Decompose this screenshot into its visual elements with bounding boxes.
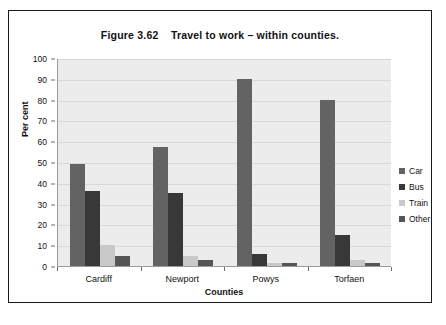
- bar-group: [142, 59, 226, 266]
- chart-title: Figure 3.62 Travel to work – within coun…: [9, 29, 431, 41]
- y-tick-label: 30: [38, 200, 47, 209]
- bar[interactable]: [183, 256, 198, 266]
- x-tick-mark: [391, 267, 392, 271]
- chart-legend: CarBusTrainOther: [399, 163, 446, 227]
- bar[interactable]: [153, 147, 168, 266]
- bar-group: [225, 59, 309, 266]
- y-tick-label: 70: [38, 117, 47, 126]
- y-tick-label: 80: [38, 96, 47, 105]
- bar[interactable]: [115, 256, 130, 266]
- bar-group: [58, 59, 142, 266]
- y-tick-mark: [51, 121, 55, 122]
- x-tick-mark: [141, 267, 142, 271]
- y-tick-mark: [51, 100, 55, 101]
- legend-swatch-icon: [399, 168, 405, 174]
- x-tick-mark: [57, 267, 58, 271]
- bar[interactable]: [85, 191, 100, 266]
- bar[interactable]: [70, 164, 85, 266]
- y-tick-label: 0: [42, 263, 47, 272]
- legend-label: Car: [409, 167, 423, 176]
- x-tick-label: Powys: [252, 274, 279, 284]
- x-axis: CardiffNewportPowysTorfaen: [57, 267, 391, 289]
- x-tick-mark: [308, 267, 309, 271]
- y-tick-label: 20: [38, 221, 47, 230]
- y-axis: 0102030405060708090100: [9, 55, 55, 271]
- y-tick-label: 60: [38, 138, 47, 147]
- bar-group: [309, 59, 393, 266]
- bar[interactable]: [198, 260, 213, 266]
- y-tick-mark: [51, 163, 55, 164]
- legend-swatch-icon: [399, 200, 405, 206]
- figure-frame: Figure 3.62 Travel to work – within coun…: [8, 10, 432, 303]
- x-tick-label: Torfaen: [334, 274, 364, 284]
- y-tick-label: 10: [38, 242, 47, 251]
- legend-swatch-icon: [399, 184, 405, 190]
- x-tick-mark: [224, 267, 225, 271]
- legend-item-car[interactable]: Car: [399, 163, 446, 179]
- y-tick-mark: [51, 142, 55, 143]
- y-tick-label: 90: [38, 76, 47, 85]
- y-tick-mark: [51, 267, 55, 268]
- y-tick-mark: [51, 246, 55, 247]
- y-tick-mark: [51, 183, 55, 184]
- bar[interactable]: [237, 79, 252, 266]
- legend-label: Train: [409, 199, 428, 208]
- y-tick-label: 40: [38, 180, 47, 189]
- y-tick-label: 100: [33, 55, 47, 64]
- bar[interactable]: [100, 245, 115, 266]
- bar[interactable]: [282, 263, 297, 266]
- y-tick-mark: [51, 79, 55, 80]
- bar[interactable]: [320, 100, 335, 266]
- legend-item-other[interactable]: Other: [399, 211, 446, 227]
- bar[interactable]: [252, 254, 267, 266]
- bar[interactable]: [335, 235, 350, 266]
- x-tick-label: Newport: [165, 274, 199, 284]
- bar[interactable]: [365, 263, 380, 266]
- legend-label: Other: [409, 215, 430, 224]
- legend-item-bus[interactable]: Bus: [399, 179, 446, 195]
- x-axis-title: Counties: [57, 287, 391, 297]
- bar[interactable]: [350, 260, 365, 266]
- y-tick-mark: [51, 59, 55, 60]
- y-tick-label: 50: [38, 159, 47, 168]
- y-tick-mark: [51, 225, 55, 226]
- bar[interactable]: [267, 263, 282, 266]
- bar[interactable]: [168, 193, 183, 266]
- legend-label: Bus: [409, 183, 424, 192]
- legend-item-train[interactable]: Train: [399, 195, 446, 211]
- legend-swatch-icon: [399, 216, 405, 222]
- x-tick-label: Cardiff: [86, 274, 112, 284]
- plot-area: [57, 59, 391, 267]
- y-tick-mark: [51, 204, 55, 205]
